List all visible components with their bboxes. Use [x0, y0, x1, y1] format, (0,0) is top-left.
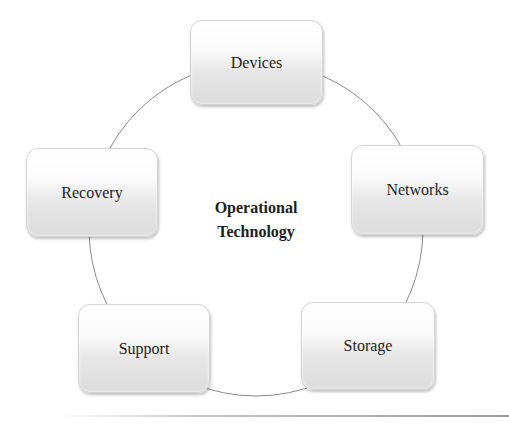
node-devices-label: Devices — [231, 54, 283, 72]
node-networks: Networks — [351, 145, 484, 235]
node-networks-label: Networks — [386, 181, 448, 199]
node-storage: Storage — [301, 302, 435, 390]
node-recovery: Recovery — [26, 148, 158, 237]
node-support: Support — [78, 304, 210, 393]
node-storage-label: Storage — [344, 337, 393, 355]
center-title: Operational Technology — [186, 196, 326, 244]
center-title-line1: Operational — [186, 196, 326, 220]
node-devices: Devices — [190, 20, 323, 105]
node-recovery-label: Recovery — [61, 184, 122, 202]
center-title-line2: Technology — [186, 220, 326, 244]
bottom-divider — [60, 415, 509, 417]
node-support-label: Support — [119, 340, 170, 358]
